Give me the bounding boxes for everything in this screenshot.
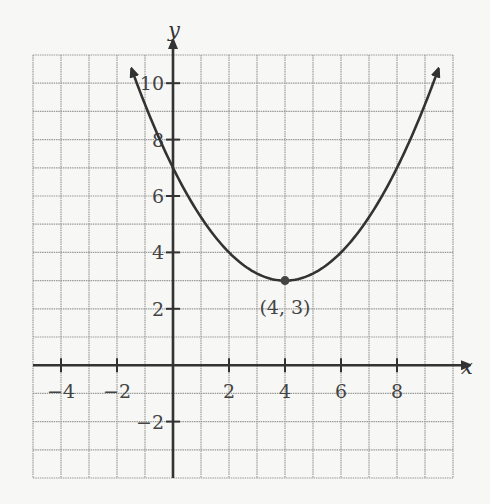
y-tick-label: 2 — [152, 298, 164, 320]
x-tick-label: 6 — [335, 380, 347, 402]
vertex-label: (4, 3) — [259, 296, 310, 318]
x-tick-label: −2 — [103, 380, 131, 402]
x-axis-label: x — [461, 355, 473, 379]
y-tick-label: −2 — [136, 411, 164, 433]
y-tick-label: 4 — [152, 241, 164, 263]
vertex-annotation: (4, 3) — [259, 276, 310, 318]
parabola-chart: xy −4−22468−2246810 (4, 3) — [0, 0, 490, 504]
y-axis-label: y — [167, 18, 181, 42]
vertex-point — [281, 276, 290, 285]
x-tick-label: −4 — [47, 380, 75, 402]
x-tick-label: 2 — [223, 380, 235, 402]
x-tick-label: 8 — [391, 380, 403, 402]
x-tick-label: 4 — [279, 380, 291, 402]
axes: xy — [33, 18, 473, 478]
grid-lines — [33, 55, 453, 478]
y-tick-label: 10 — [140, 72, 164, 94]
y-tick-label: 6 — [152, 185, 164, 207]
parabola-left-arrow — [132, 71, 133, 75]
